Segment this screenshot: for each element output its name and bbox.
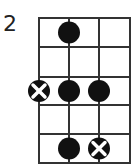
- finger-dot: [58, 80, 80, 102]
- finger-dot: [58, 138, 80, 160]
- finger-dot: [58, 22, 80, 44]
- chord-diagram: [0, 0, 140, 167]
- finger-dot: [88, 80, 110, 102]
